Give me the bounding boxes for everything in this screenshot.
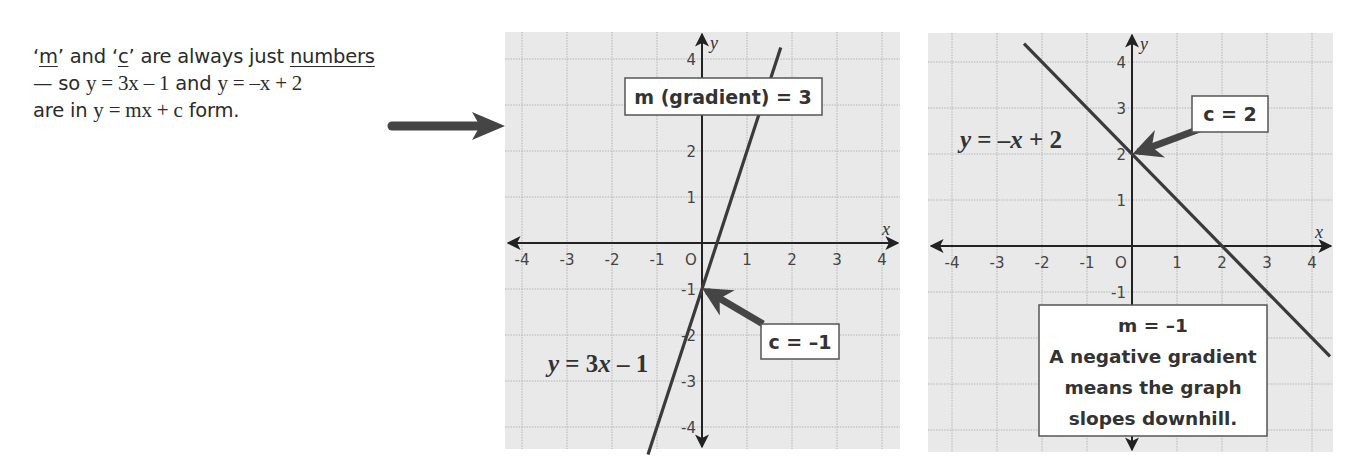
svg-text:2: 2 — [1116, 146, 1126, 164]
svg-text:2: 2 — [787, 251, 797, 269]
svg-text:4: 4 — [877, 251, 887, 269]
gradient-explanation-line: means the graph — [1064, 377, 1241, 398]
svg-text:-3: -3 — [990, 254, 1005, 272]
gradient-box-text: m (gradient) = 3 — [634, 86, 812, 108]
svg-text:-1: -1 — [681, 281, 696, 299]
x-axis-label: x — [881, 219, 890, 239]
svg-text:3: 3 — [1262, 254, 1272, 272]
x-axis-label: x — [1314, 222, 1323, 242]
svg-text:-4: -4 — [515, 251, 530, 269]
svg-text:1: 1 — [1172, 254, 1182, 272]
svg-text:2: 2 — [686, 143, 696, 161]
svg-text:O: O — [685, 251, 697, 269]
graph-y-equals-3x-minus-1: xy-4-3-2-1O12344321-1-2-3-4m (gradient) … — [505, 32, 900, 455]
svg-text:-4: -4 — [945, 254, 960, 272]
graphs-canvas: xy-4-3-2-1O12344321-1-2-3-4m (gradient) … — [0, 0, 1363, 466]
svg-text:2: 2 — [1217, 254, 1227, 272]
gradient-explanation-line: m = –1 — [1118, 315, 1188, 336]
equation-label: y = 3x – 1 — [545, 350, 648, 377]
graph-y-equals-minus-x-plus-2: xy-4-3-2-1O12344321-1-4c = 2y = –x + 2m … — [928, 33, 1333, 452]
svg-text:3: 3 — [1116, 100, 1126, 118]
svg-text:4: 4 — [1116, 54, 1126, 72]
svg-text:1: 1 — [742, 251, 752, 269]
svg-text:-3: -3 — [681, 373, 696, 391]
svg-text:-2: -2 — [1035, 254, 1050, 272]
intercept-box-text: c = –1 — [768, 331, 831, 353]
svg-text:-1: -1 — [1080, 254, 1095, 272]
svg-text:1: 1 — [686, 189, 696, 207]
y-axis-label: y — [708, 33, 718, 53]
intercept-box-text: c = 2 — [1203, 103, 1257, 125]
svg-text:-1: -1 — [650, 251, 665, 269]
equation-label: y = –x + 2 — [957, 126, 1062, 153]
svg-text:1: 1 — [1116, 192, 1126, 210]
pointer-arrow-icon — [392, 112, 505, 140]
svg-text:-1: -1 — [1111, 284, 1126, 302]
svg-text:4: 4 — [1307, 254, 1317, 272]
y-axis-label: y — [1138, 34, 1148, 54]
svg-text:-4: -4 — [681, 419, 696, 437]
svg-text:4: 4 — [686, 51, 696, 69]
svg-text:O: O — [1115, 254, 1127, 272]
svg-text:-3: -3 — [560, 251, 575, 269]
svg-text:-2: -2 — [605, 251, 620, 269]
svg-text:3: 3 — [832, 251, 842, 269]
gradient-explanation-line: slopes downhill. — [1069, 408, 1238, 429]
gradient-explanation-line: A negative gradient — [1049, 346, 1257, 367]
